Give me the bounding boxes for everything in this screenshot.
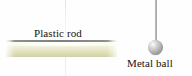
plastic-rod-right-fade <box>107 40 117 57</box>
plastic-rod-highlight <box>6 42 117 46</box>
plastic-rod-label: Plastic rod <box>34 27 82 39</box>
plastic-rod-top-edge <box>6 40 117 42</box>
plastic-rod <box>6 40 117 57</box>
plastic-rod-left-fade <box>6 40 15 57</box>
metal-ball <box>148 40 163 55</box>
metal-ball-label: Metal ball <box>127 57 173 69</box>
suspension-string <box>155 0 157 45</box>
physics-illustration: Plastic rod Metal ball <box>0 0 192 76</box>
